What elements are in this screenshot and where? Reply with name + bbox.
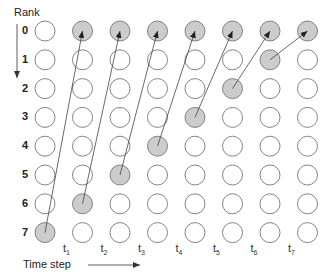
time-step-label: t6: [251, 242, 258, 256]
rank-label: 0: [22, 24, 28, 36]
rank-label: 6: [22, 197, 28, 209]
node: [223, 107, 243, 127]
time-step-label: t4: [176, 242, 183, 256]
node: [298, 194, 318, 214]
node: [298, 107, 318, 127]
node: [260, 223, 280, 243]
node: [73, 223, 93, 243]
time-step-label: t7: [288, 242, 295, 256]
node: [298, 50, 318, 70]
node: [73, 79, 93, 99]
node: [110, 50, 130, 70]
rank-label: 5: [22, 168, 28, 180]
message-arrow: [195, 31, 233, 117]
rank-label: 1: [22, 53, 28, 65]
node: [148, 194, 168, 214]
node: [185, 136, 205, 156]
node: [35, 50, 55, 70]
node: [298, 165, 318, 185]
rank-label: 3: [22, 110, 28, 122]
rank-label: 4: [22, 139, 28, 151]
time-step-label: t2: [101, 242, 108, 256]
node: [110, 79, 130, 99]
node: [298, 136, 318, 156]
node: [35, 136, 55, 156]
node: [260, 107, 280, 127]
node: [73, 136, 93, 156]
node: [110, 136, 130, 156]
node: [298, 79, 318, 99]
node: [148, 79, 168, 99]
node: [110, 107, 130, 127]
node: [73, 107, 93, 127]
node: [223, 194, 243, 214]
time-axis-label: Time step: [23, 258, 71, 270]
node: [223, 136, 243, 156]
shaded-node: [260, 50, 280, 70]
rank-label: 2: [22, 82, 28, 94]
node: [110, 223, 130, 243]
node: [260, 136, 280, 156]
node: [148, 50, 168, 70]
node: [185, 165, 205, 185]
node: [185, 194, 205, 214]
node: [223, 50, 243, 70]
node: [260, 194, 280, 214]
rank-axis-label: Rank: [14, 6, 40, 18]
node: [73, 165, 93, 185]
node: [260, 165, 280, 185]
node: [35, 79, 55, 99]
node: [298, 223, 318, 243]
diagram-canvas: Rank 01234567 t1t2t3t4t5t6t7 Time step: [0, 0, 330, 276]
time-step-label: t1: [63, 242, 70, 256]
node: [260, 79, 280, 99]
rank-label: 7: [22, 226, 28, 238]
node: [185, 79, 205, 99]
node: [35, 165, 55, 185]
node: [223, 165, 243, 185]
node: [148, 165, 168, 185]
rank-time-grid: [0, 0, 330, 276]
node: [148, 223, 168, 243]
node: [185, 223, 205, 243]
time-step-label: t3: [138, 242, 145, 256]
node: [223, 223, 243, 243]
node: [35, 107, 55, 127]
node: [110, 194, 130, 214]
time-step-label: t5: [213, 242, 220, 256]
node: [35, 21, 55, 41]
